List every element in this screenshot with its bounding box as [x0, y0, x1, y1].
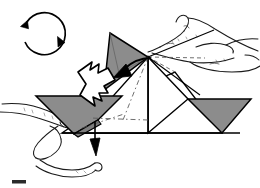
page-corner-mark [12, 180, 26, 184]
origami-step-figure [0, 0, 260, 188]
